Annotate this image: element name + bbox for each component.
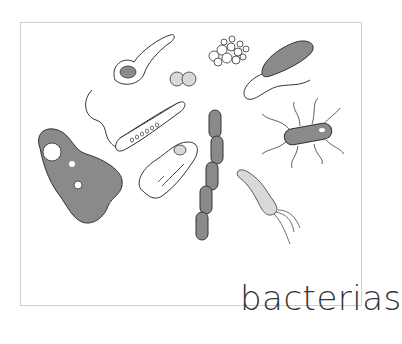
streptobacillus-icon — [196, 110, 223, 240]
caption-bacterias: bacterias — [240, 278, 402, 318]
spirillum-icon — [86, 90, 185, 151]
spoon-cell-icon — [114, 35, 174, 85]
vibrio-icon — [237, 170, 300, 244]
ciliated-cell-icon — [139, 142, 197, 198]
staphylococcus-icon — [209, 36, 249, 66]
flagellated-rod-icon — [244, 41, 313, 99]
peritrichous-rod-icon — [262, 98, 344, 168]
amoeba-icon — [39, 129, 123, 223]
diplococcus-icon — [170, 72, 196, 86]
